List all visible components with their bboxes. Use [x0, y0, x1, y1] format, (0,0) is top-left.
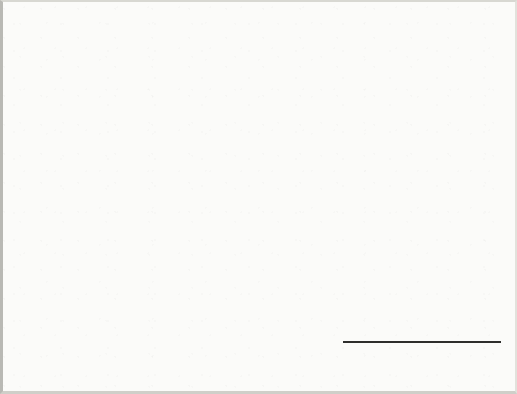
legend-baseline-rule: [343, 341, 501, 343]
figure-page: [0, 0, 517, 394]
legend-color-strip: [343, 256, 364, 342]
chart-plot-area: [54, 44, 350, 340]
